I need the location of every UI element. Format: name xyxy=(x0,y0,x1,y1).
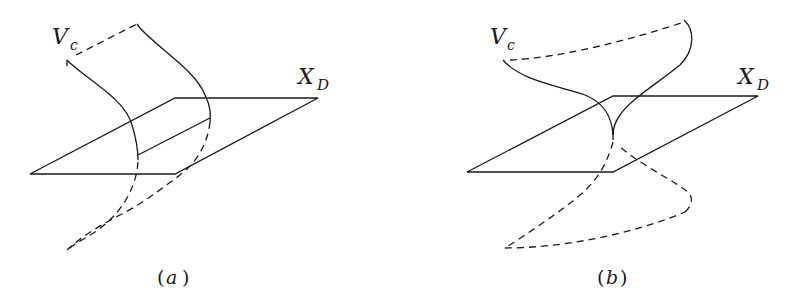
plane-label-a: X xyxy=(296,64,315,89)
surface-right-lower-b xyxy=(618,145,691,212)
surface-label-sub-a: c xyxy=(70,37,78,53)
surface-right-curve-a xyxy=(137,24,210,122)
caption-a-close: ) xyxy=(182,266,189,288)
surface-left-curve-a xyxy=(67,60,138,160)
surface-left-lower-a xyxy=(67,162,138,250)
plane-label-sub-a: D xyxy=(316,76,329,94)
caption-b-close: ) xyxy=(620,266,627,288)
caption-b-letter: b xyxy=(606,266,618,288)
plane-intersection-line-a xyxy=(138,118,210,155)
surface-label-sub-b: c xyxy=(507,37,515,53)
surface-top-edge-a xyxy=(76,24,137,55)
caption-a-open: ( xyxy=(157,266,164,288)
surface-left-curve-b xyxy=(503,60,613,135)
caption-b-open: ( xyxy=(597,266,604,288)
plane-label-b: X xyxy=(736,64,755,89)
plane-label-sub-b: D xyxy=(756,76,769,94)
surface-label-a: V xyxy=(52,24,70,49)
surface-right-lower-a xyxy=(67,122,210,250)
surface-top-edge-b xyxy=(510,22,684,60)
surface-right-curve-b xyxy=(613,20,692,135)
panel-a: V c X D ( a ) xyxy=(30,24,329,288)
caption-a-letter: a xyxy=(166,266,177,288)
diagram-canvas: V c X D ( a ) V c X D ( b ) xyxy=(0,0,806,305)
surface-left-lower-b xyxy=(505,142,613,248)
surface-label-b: V xyxy=(490,24,508,49)
panel-b: V c X D ( b ) xyxy=(467,20,769,288)
